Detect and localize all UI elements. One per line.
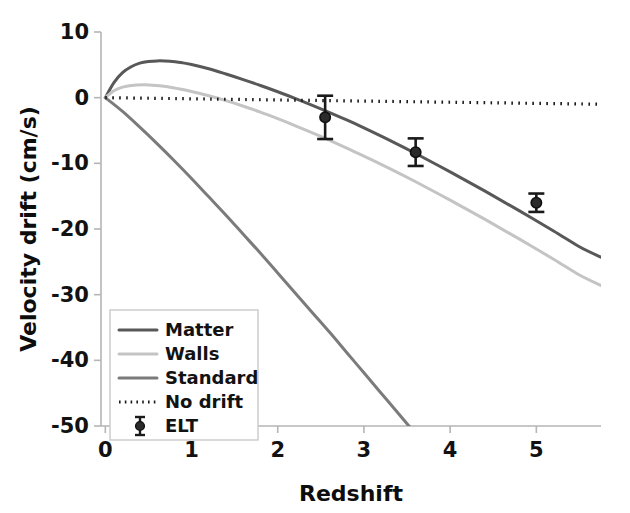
elt-marker	[320, 112, 330, 122]
x-tick-label: 1	[184, 438, 199, 462]
chart-legend[interactable]: MatterWallsStandardNo driftELT	[110, 310, 258, 440]
y-tick-label: -50	[51, 414, 89, 438]
y-tick-label: -10	[51, 151, 89, 175]
chart-figure: 100-10-20-30-40-50 012345 Redshift Veloc…	[0, 0, 630, 513]
x-tick-label: 5	[529, 438, 544, 462]
x-tick-labels: 012345	[98, 438, 544, 462]
legend-swatch-marker	[136, 422, 145, 431]
x-axis-title: Redshift	[299, 481, 403, 506]
legend-label: Matter	[165, 319, 233, 340]
legend-label: ELT	[165, 415, 199, 436]
elt-point	[408, 138, 424, 166]
y-tick-label: 0	[74, 86, 89, 110]
y-tick-label: 10	[60, 20, 89, 44]
y-tick-label: -40	[51, 348, 89, 372]
y-tick-labels: 100-10-20-30-40-50	[51, 20, 89, 438]
elt-marker	[410, 147, 420, 157]
y-tick-label: -30	[51, 283, 89, 307]
x-tick-label: 2	[270, 438, 285, 462]
elt-point	[528, 194, 544, 212]
y-axis-ticks	[94, 32, 101, 426]
legend-label: Walls	[165, 343, 219, 364]
y-tick-label: -20	[51, 217, 89, 241]
series-line-walls	[105, 85, 601, 286]
x-tick-label: 3	[357, 438, 372, 462]
legend-label: No drift	[165, 391, 243, 412]
y-axis-title: Velocity drift (cm/s)	[16, 106, 41, 352]
legend-label: Standard	[165, 367, 258, 388]
elt-marker	[531, 198, 541, 208]
elt-data-points	[317, 96, 544, 212]
x-tick-label: 0	[98, 438, 113, 462]
x-tick-label: 4	[443, 438, 458, 462]
velocity-drift-chart: 100-10-20-30-40-50 012345 Redshift Veloc…	[0, 0, 630, 513]
series-line-no-drift	[105, 98, 601, 105]
